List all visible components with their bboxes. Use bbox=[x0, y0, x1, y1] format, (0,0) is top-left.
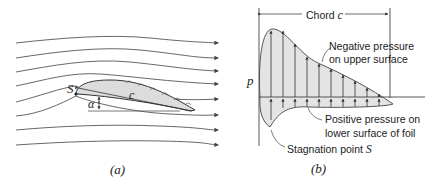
angle-label: α bbox=[88, 97, 95, 111]
lower-annotation-line1: Positive pressure on bbox=[325, 113, 420, 125]
lower-annotation-line2: lower surface of foil bbox=[325, 127, 415, 139]
chord-label-a: c bbox=[129, 88, 135, 102]
stagnation-label-a: S bbox=[67, 81, 74, 96]
pressure-axis-label: p bbox=[246, 73, 254, 88]
chord-label-b: Chord c bbox=[306, 8, 344, 22]
stagnation-annotation: Stagnation point S bbox=[287, 142, 372, 156]
panel-a: S c α (a) bbox=[16, 36, 218, 177]
upper-annotation-line2: on upper surface bbox=[329, 53, 408, 65]
caption-a: (a) bbox=[110, 162, 125, 177]
caption-b: (b) bbox=[311, 161, 326, 176]
upper-annotation-line1: Negative pressure bbox=[329, 40, 414, 52]
airfoil-diagram: S c α (a) Chord c bbox=[0, 0, 434, 187]
panel-b: Chord c bbox=[246, 8, 425, 176]
